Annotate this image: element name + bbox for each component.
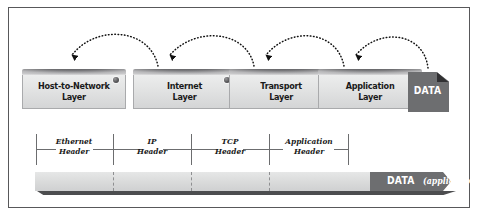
header-label-application: Application Header [280, 137, 337, 156]
box-knob-icon [113, 77, 119, 83]
header-label-ethernet: Ethernet Header [46, 137, 101, 156]
bar-drop-shadow [37, 191, 456, 195]
header-label-ip: IP Header [124, 137, 179, 156]
box-body: Application Layer [318, 75, 422, 109]
box-body: Host-to-Network Layer [22, 75, 126, 109]
bar-data-label: DATA [387, 175, 414, 186]
header-label-tcp: TCP Header [202, 137, 257, 156]
layer-box-internet[interactable]: Internet Layer [133, 69, 237, 109]
layer-label: Host-to-Network Layer [38, 81, 110, 103]
bar-divider [113, 172, 114, 191]
bar-divider [269, 172, 270, 191]
data-document-icon[interactable]: DATA [408, 72, 449, 112]
figure-canvas: Host-to-Network Layer Internet Layer Tra… [0, 0, 485, 220]
layer-label: Internet Layer [167, 81, 202, 103]
layer-box-application[interactable]: Application Layer [318, 69, 422, 109]
layer-label: Application Layer [346, 81, 395, 103]
bar-divider [191, 172, 192, 191]
layer-label: Transport Layer [260, 81, 301, 103]
box-body: Internet Layer [133, 75, 237, 109]
data-document-label: DATA [410, 85, 446, 96]
encapsulation-bar[interactable]: DATA (application) [35, 172, 456, 196]
layer-box-host-to-network[interactable]: Host-to-Network Layer [22, 69, 126, 109]
bar-application-label: (application) [423, 176, 480, 186]
